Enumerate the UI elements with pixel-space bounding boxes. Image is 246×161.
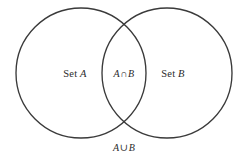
- set-a-label: Set A: [63, 68, 86, 79]
- union-operator-icon: ∪: [119, 142, 128, 153]
- set-b-label-symbol: B: [178, 67, 185, 78]
- set-b-label-prefix: Set: [161, 67, 178, 78]
- intersection-label: A∩B: [114, 69, 135, 79]
- intersection-right-operand: B: [128, 68, 134, 79]
- intersection-operator-icon: ∩: [120, 68, 128, 79]
- set-a-label-symbol: A: [80, 67, 87, 78]
- set-a-label-prefix: Set: [63, 67, 80, 78]
- union-right-operand: B: [129, 142, 135, 153]
- union-label: A∪B: [113, 143, 135, 153]
- venn-diagram-canvas: [0, 0, 246, 161]
- set-b-label: Set B: [161, 68, 184, 79]
- venn-diagram-figure: Set A A∩B Set B A∪B: [0, 0, 246, 161]
